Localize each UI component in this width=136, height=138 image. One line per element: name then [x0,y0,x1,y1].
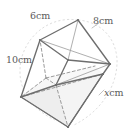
label-x-cm: xcm [104,88,123,98]
label-10cm-number: 10 [6,54,18,65]
label-6cm-unit: cm [36,10,50,21]
label-6cm: 6cm [30,11,50,21]
edge-top-face [40,20,110,64]
vertex-bottom-left [20,96,22,98]
vertex-top [77,19,79,21]
vertex-bottom-back [55,84,57,86]
label-10cm-unit: cm [18,54,32,65]
vertex-bottom-right [102,73,104,75]
cuboid-diagram [0,0,136,138]
label-10cm: 10cm [6,55,32,65]
label-x-unit: cm [109,87,123,98]
vertex-top-right [109,63,111,65]
geometry-figure: 6cm 8cm 10cm xcm [0,0,136,138]
vertex-top-left [39,39,41,41]
vertex-bottom [67,126,69,128]
hidden-edge-vertical-upper [40,40,46,78]
diagonal-top-b [68,20,78,60]
vertex-top-front [67,59,69,61]
label-8cm: 8cm [93,16,113,26]
label-8cm-unit: cm [99,15,113,26]
